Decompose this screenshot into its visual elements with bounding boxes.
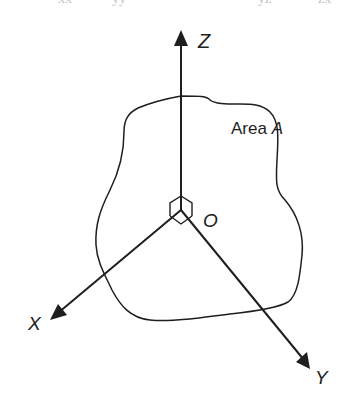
y-axis-label: Y [315,368,328,387]
top-text-fragment: xx [58,0,72,7]
area-label: Area A [231,120,283,137]
x-axis [58,210,181,313]
y-axis-arrowhead [296,352,310,369]
coordinate-diagram: xx yy yz zx Z X Y O Area A [0,0,344,398]
y-axis [181,210,304,360]
diagram-canvas [0,0,344,398]
z-axis-label: Z [198,31,210,51]
area-label-variable: A [272,119,283,138]
z-axis-arrowhead [174,30,188,46]
x-axis-label: X [28,314,41,333]
area-label-prefix: Area [231,119,272,138]
top-text-fragment: yz [258,0,271,7]
top-text-fragment: zx [318,0,331,7]
top-text-fragment: yy [112,0,126,7]
origin-label: O [203,211,218,230]
